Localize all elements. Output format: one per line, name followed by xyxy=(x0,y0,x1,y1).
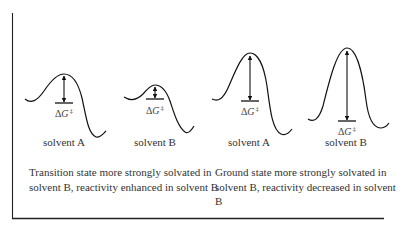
solvent-label-gs-a: solvent A xyxy=(228,136,270,149)
caption-gs-solvated: Ground state more strongly solvated in s… xyxy=(215,165,402,209)
barrier-label-gs-a: ΔG‡ xyxy=(241,104,259,117)
solvent-label-ts-a: solvent A xyxy=(43,136,85,149)
barrier-label-ts-a: ΔG‡ xyxy=(55,106,73,119)
energy-profile-figure: ΔG‡ ΔG‡ ΔG‡ ΔG‡ solvent A solvent B solv… xyxy=(0,0,402,231)
caption-ts-solvated: Transition state more strongly solvated … xyxy=(29,165,219,194)
solvent-label-ts-b: solvent B xyxy=(134,136,176,149)
energy-curve-gs-solvent-a xyxy=(212,53,292,135)
barrier-label-ts-b: ΔG‡ xyxy=(146,103,164,116)
solvent-label-gs-b: solvent B xyxy=(325,136,367,149)
energy-curve-gs-solvent-b xyxy=(308,48,389,128)
